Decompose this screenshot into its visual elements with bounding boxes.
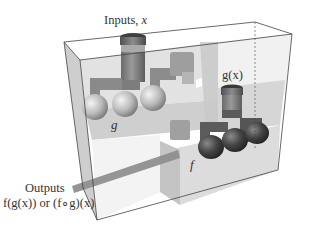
g-sphere-2 [112,91,138,117]
inputs-label-var: x [142,13,148,27]
g-label: g [111,118,118,131]
g-sphere-3 [140,85,166,111]
inputs-label: Inputs, x [104,14,147,27]
f-sphere-2 [222,128,248,152]
gx-label: g(x) [222,69,243,82]
input-pipe [121,52,145,82]
input-funnel-top [120,37,146,45]
inputs-label-text: Inputs, [104,13,142,27]
f-feeder-block [170,120,190,140]
outputs-expression: f(g(x)) or (f∘g)(x) [3,197,94,210]
input-funnel-band [121,45,145,52]
g-feeder-block-side [182,72,194,84]
g-pipe-middle [122,80,140,90]
f-sphere-1 [198,135,224,159]
outputs-label: Outputs [25,182,65,195]
gx-funnel-top [221,88,243,95]
gx-pipe-dark [222,110,242,118]
f-sphere-3 [245,122,269,144]
f-chamber-front [158,140,180,205]
f-label: f [190,158,194,171]
